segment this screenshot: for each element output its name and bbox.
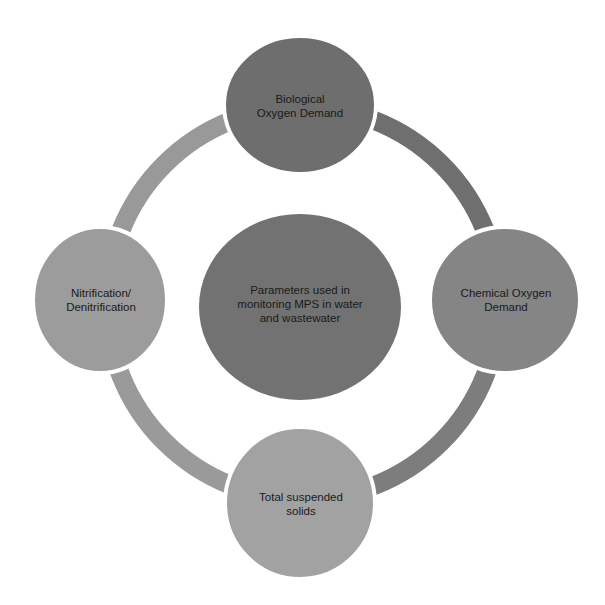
- diagram-canvas: [0, 0, 605, 605]
- node-left-circle: [33, 227, 167, 373]
- center-circle: [199, 214, 401, 400]
- node-right-circle: [430, 227, 580, 373]
- node-bottom-circle: [225, 427, 375, 579]
- parameters-cycle-diagram: Biological Oxygen Demand Chemical Oxygen…: [0, 0, 605, 605]
- node-top-circle: [224, 36, 376, 174]
